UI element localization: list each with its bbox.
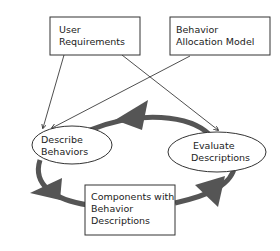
label-evaluate-descriptions: Evaluate Descriptions <box>191 140 250 164</box>
label-line: Descriptions <box>91 215 174 227</box>
label-line: Behaviors <box>41 146 88 158</box>
label-behavior-allocation-model: Behavior Allocation Model <box>176 24 254 48</box>
label-line: Descriptions <box>191 152 250 164</box>
label-user-requirements: User Requirements <box>59 24 125 48</box>
label-line: Evaluate <box>191 140 250 152</box>
label-line: Behavior <box>91 203 174 215</box>
label-describe-behaviors: Describe Behaviors <box>41 134 88 158</box>
label-line: Requirements <box>59 36 125 48</box>
label-line: User <box>59 24 125 36</box>
label-line: Components with <box>91 191 174 203</box>
label-components: Components with Behavior Descriptions <box>91 191 174 227</box>
cycle-arrow-top <box>90 100 210 135</box>
label-line: Describe <box>41 134 88 146</box>
cycle-arrow-left <box>30 160 88 205</box>
label-line: Behavior <box>176 24 254 36</box>
arrow-userreq-to-describe <box>43 55 64 128</box>
label-line: Allocation Model <box>176 36 254 48</box>
